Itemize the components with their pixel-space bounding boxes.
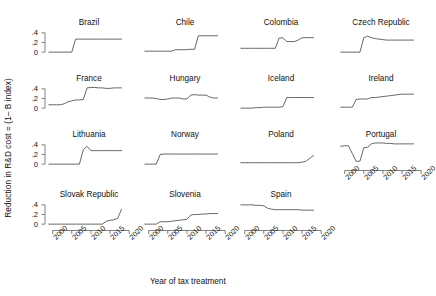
- y-tick-label: 0: [24, 161, 38, 168]
- series-line: [145, 214, 218, 225]
- panel-plot: [337, 85, 429, 114]
- small-multiples-figure: Reduction in R&D cost = (1– B index) Bra…: [0, 0, 436, 296]
- y-axis: [40, 201, 46, 230]
- panel-title: Norway: [141, 130, 229, 140]
- y-tick-labels: 0.2.4: [23, 201, 38, 228]
- panel-brazil: Brazil: [45, 18, 133, 58]
- panel-plot: [237, 29, 329, 58]
- series-line: [341, 94, 414, 107]
- panel-title: Iceland: [237, 74, 325, 84]
- panel-title: Lithuania: [45, 130, 133, 140]
- panel-plot: [45, 141, 137, 170]
- y-tick-label: .4: [24, 141, 38, 148]
- panel-plot: [337, 29, 429, 58]
- y-tick-labels: 0.2.4: [23, 85, 38, 112]
- y-axis: [40, 141, 46, 170]
- panel-title: Portugal: [337, 130, 425, 140]
- y-tick-label: .2: [24, 95, 38, 102]
- panel-plot: [337, 141, 429, 170]
- panel-title: Slovak Republic: [45, 190, 133, 200]
- y-tick-label: 0: [24, 49, 38, 56]
- panel-plot: [237, 85, 329, 114]
- y-tick-labels: 0.2.4: [23, 141, 38, 168]
- series-line: [241, 205, 314, 210]
- panel-plot: [45, 85, 137, 114]
- y-axis: [40, 29, 46, 58]
- panel-title: Spain: [237, 190, 325, 200]
- series-line: [341, 36, 414, 52]
- series-line: [241, 38, 314, 49]
- panel-plot: [237, 141, 329, 170]
- y-axis: [40, 85, 46, 114]
- y-tick-label: .2: [24, 39, 38, 46]
- series-line: [145, 36, 218, 51]
- series-line: [145, 154, 218, 164]
- panel-plot: [141, 29, 233, 58]
- panel-plot: [45, 29, 137, 58]
- series-line: [241, 155, 314, 162]
- panel-colombia: Colombia: [237, 18, 325, 58]
- panel-title: Hungary: [141, 74, 229, 84]
- panel-chile: Chile: [141, 18, 229, 58]
- series-line: [49, 87, 122, 104]
- series-line: [49, 39, 122, 52]
- y-tick-label: 0: [24, 221, 38, 228]
- panel-france: France: [45, 74, 133, 114]
- y-tick-label: .4: [24, 85, 38, 92]
- panel-iceland: Iceland: [237, 74, 325, 114]
- y-tick-label: .4: [24, 201, 38, 208]
- panel-title: Chile: [141, 18, 229, 28]
- panel-title: Colombia: [237, 18, 325, 28]
- series-line: [49, 209, 122, 224]
- x-axis-label: Year of tax treatment: [150, 277, 226, 286]
- panel-title: France: [45, 74, 133, 84]
- panel-plot: [45, 201, 137, 230]
- series-line: [241, 98, 314, 109]
- series-line: [145, 95, 218, 100]
- y-tick-label: .2: [24, 211, 38, 218]
- panel-plot: [141, 141, 233, 170]
- panel-norway: Norway: [141, 130, 229, 170]
- panel-plot: [141, 201, 233, 230]
- panel-ireland: Ireland: [337, 74, 425, 114]
- panel-plot: [141, 85, 233, 114]
- panel-plot: [237, 201, 329, 230]
- series-line: [49, 146, 122, 164]
- panel-czech-republic: Czech Republic: [337, 18, 425, 58]
- panel-hungary: Hungary: [141, 74, 229, 114]
- y-tick-labels: 0.2.4: [23, 29, 38, 56]
- panel-poland: Poland: [237, 130, 325, 170]
- panel-title: Brazil: [45, 18, 133, 28]
- y-tick-label: .4: [24, 29, 38, 36]
- panel-lithuania: Lithuania: [45, 130, 133, 170]
- panel-title: Ireland: [337, 74, 425, 84]
- panel-title: Slovenia: [141, 190, 229, 200]
- panel-title: Czech Republic: [337, 18, 425, 28]
- series-line: [341, 143, 414, 161]
- y-axis-label: Reduction in R&D cost = (1– B index): [2, 0, 16, 296]
- y-tick-label: 0: [24, 105, 38, 112]
- panel-title: Poland: [237, 130, 325, 140]
- y-tick-label: .2: [24, 151, 38, 158]
